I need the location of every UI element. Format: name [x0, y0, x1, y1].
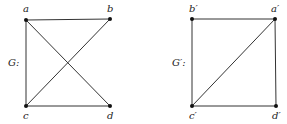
vertex-label: c′ [189, 110, 198, 121]
vertex [24, 18, 28, 22]
edge [275, 19, 276, 106]
edge [192, 19, 275, 106]
graph-diagram: abcdG:b′a′c′d′G′: [0, 0, 287, 124]
vertex [190, 104, 194, 108]
graph-label: G′: [172, 57, 186, 68]
vertex [273, 17, 277, 21]
graph-label: G: [8, 57, 19, 68]
edge [26, 19, 110, 20]
vertex [108, 104, 112, 108]
graph-g-prime: b′a′c′d′G′: [172, 3, 281, 121]
vertex-label: b′ [189, 3, 198, 14]
vertex-label: c [23, 110, 29, 121]
graph-g: abcdG: [8, 3, 113, 121]
vertex [108, 17, 112, 21]
vertex-label: d [107, 110, 113, 121]
vertex-label: b [107, 3, 113, 14]
vertex-label: d′ [272, 110, 281, 121]
vertex [190, 17, 194, 21]
vertex-label: a [23, 3, 29, 14]
vertex-label: a′ [271, 3, 280, 14]
vertex [24, 104, 28, 108]
vertex [274, 104, 278, 108]
